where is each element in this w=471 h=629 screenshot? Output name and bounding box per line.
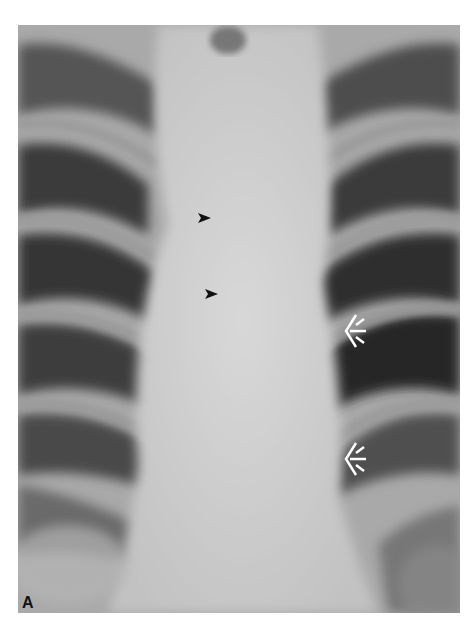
- radiograph-image: [18, 25, 460, 613]
- panel-label: A: [22, 594, 34, 612]
- chest-radiograph: [18, 25, 460, 613]
